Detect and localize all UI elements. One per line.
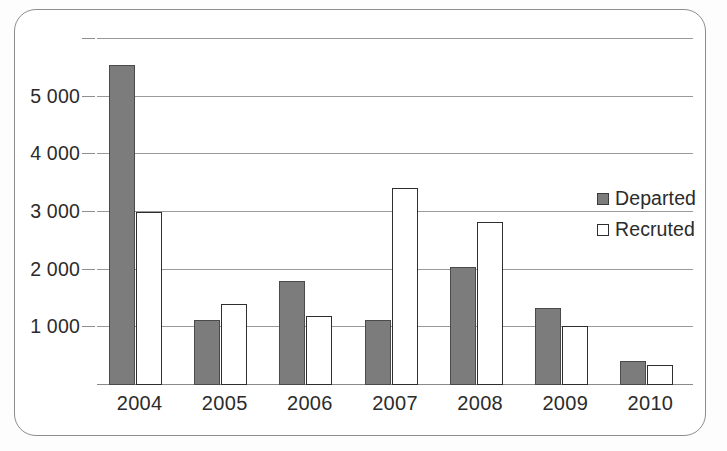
x-tick-label-2008: 2008	[438, 392, 523, 415]
y-tick-mark-1000	[82, 326, 95, 327]
y-tick-mark-2000	[82, 269, 95, 270]
y-tick-mark-6000	[82, 38, 95, 39]
x-tick-label-2010: 2010	[608, 392, 693, 415]
bar-recruted-2006	[306, 316, 332, 385]
bar-chart-figure: 1 0002 0003 0004 0005 000 20042005200620…	[0, 0, 727, 451]
y-tick-label-2000: 2 000	[30, 258, 80, 281]
bar-departed-2005	[194, 320, 220, 385]
bar-recruted-2009	[562, 326, 588, 385]
x-tick-label-2004: 2004	[97, 392, 182, 415]
bar-recruted-2008	[477, 222, 503, 385]
gridline-6000	[97, 38, 693, 39]
y-tick-label-3000: 3 000	[30, 200, 80, 223]
y-tick-label-4000: 4 000	[30, 142, 80, 165]
x-tick-label-2005: 2005	[182, 392, 267, 415]
legend-item-departed: Departed	[597, 183, 709, 214]
y-tick-mark-4000	[82, 153, 95, 154]
bar-departed-2007	[365, 320, 391, 385]
bar-recruted-2010	[647, 365, 673, 385]
legend-item-recruted: Recruted	[597, 214, 709, 245]
legend-swatch-recruted-icon	[597, 224, 609, 236]
bar-departed-2008	[450, 267, 476, 385]
y-tick-mark-5000	[82, 96, 95, 97]
legend-label-departed: Departed	[615, 187, 696, 210]
bar-recruted-2005	[221, 304, 247, 385]
x-axis-labels: 2004200520062007200820092010	[97, 392, 693, 426]
y-axis-labels: 1 0002 0003 0004 0005 000	[0, 39, 80, 385]
x-tick-label-2007: 2007	[352, 392, 437, 415]
y-tick-label-5000: 5 000	[30, 85, 80, 108]
bar-departed-2006	[279, 281, 305, 385]
x-tick-label-2006: 2006	[267, 392, 352, 415]
gridline-5000	[97, 96, 693, 97]
x-tick-label-2009: 2009	[523, 392, 608, 415]
bar-departed-2004	[109, 65, 135, 385]
bar-departed-2010	[620, 361, 646, 385]
legend-label-recruted: Recruted	[615, 218, 695, 241]
bar-recruted-2007	[392, 188, 418, 385]
y-tick-mark-3000	[82, 211, 95, 212]
bar-departed-2009	[535, 308, 561, 385]
legend-swatch-departed-icon	[597, 193, 609, 205]
bar-recruted-2004	[136, 212, 162, 385]
gridline-4000	[97, 153, 693, 154]
chart-legend: DepartedRecruted	[597, 183, 709, 245]
y-tick-label-1000: 1 000	[30, 315, 80, 338]
